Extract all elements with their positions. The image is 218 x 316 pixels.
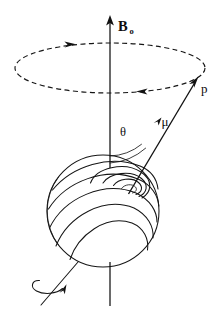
theta-angle-label: θ <box>120 125 126 139</box>
mu-vector-shaft <box>129 82 196 195</box>
b0-field-subscript-label: o <box>130 26 134 36</box>
spin-rotation-curve <box>32 280 62 293</box>
physics-diagram-figure: B o θ p μ <box>0 0 218 316</box>
sphere-band-3 <box>50 189 158 228</box>
sphere-spiral-ring-inner <box>114 179 142 194</box>
mu-vector-mid-arrow-marker <box>154 118 162 126</box>
sphere-band-4 <box>56 204 153 246</box>
precession-direction-arrowhead-front <box>136 88 148 94</box>
magnetic-moment-vector-group: p μ <box>129 76 208 194</box>
p-momentum-label: p <box>201 81 208 96</box>
b0-field-label: B <box>118 18 128 34</box>
spin-rotation-arrowhead-icon <box>60 284 67 294</box>
sphere-spiral-ring-outer <box>91 167 150 198</box>
sphere-band-5 <box>70 221 148 260</box>
sphere-band-1 <box>53 161 159 190</box>
spin-axis-stub <box>41 262 78 305</box>
mu-vector-arrowhead-at-p <box>189 76 198 87</box>
theta-angle-arc <box>110 144 142 156</box>
mu-moment-label: μ <box>162 114 169 129</box>
b0-label-group: B o <box>118 18 134 36</box>
precession-direction-arrowhead-back <box>64 42 76 48</box>
spin-rotation-group <box>32 262 78 305</box>
theta-angle-group: θ <box>110 125 146 163</box>
larmor-precession-diagram: B o θ p μ <box>0 0 218 316</box>
